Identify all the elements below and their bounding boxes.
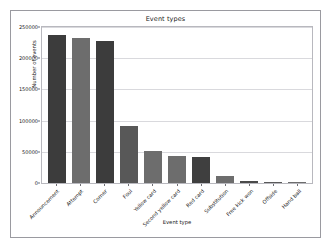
bar-series [42, 27, 312, 183]
x-tick-mark [273, 184, 274, 186]
y-tick-mark [38, 183, 40, 184]
bar [240, 181, 259, 183]
bar [168, 156, 187, 183]
chart-title: Event types [11, 15, 320, 23]
x-tick-label: Announcement [28, 188, 60, 220]
y-tick-label: 100000 [19, 118, 38, 124]
bar [144, 151, 163, 183]
y-tick-mark [38, 151, 40, 152]
x-label-slot: Hand ball [286, 188, 310, 232]
bar-slot [45, 27, 69, 183]
bar-slot [261, 27, 285, 183]
y-tick-label: 50000 [22, 149, 38, 155]
x-tick-mark [56, 184, 57, 186]
bar-slot [165, 27, 189, 183]
bar [192, 157, 211, 183]
y-axis-label: Number of events [31, 19, 37, 109]
x-tick-mark [128, 184, 129, 186]
bar-slot [285, 27, 309, 183]
x-tick-mark [297, 184, 298, 186]
bar-slot [189, 27, 213, 183]
chart-figure: Event types 0500001000001500002000002500… [10, 10, 321, 238]
y-tick-mark [38, 58, 40, 59]
x-label-slot: Offside [262, 188, 286, 232]
x-tick-label: Corner [92, 188, 109, 205]
x-axis-labels: AnnouncementAttemptCornerFoulYellow card… [41, 188, 313, 232]
bar-slot [141, 27, 165, 183]
x-label-slot: Attempt [68, 188, 92, 232]
x-tick-label: Foul [121, 188, 133, 200]
x-label-slot: Free kick won [238, 188, 262, 232]
x-tick-mark [249, 184, 250, 186]
x-label-slot: Second yellow card [165, 188, 189, 232]
bar-slot [93, 27, 117, 183]
x-tick-mark [225, 184, 226, 186]
x-label-slot: Announcement [44, 188, 68, 232]
y-tick-mark [38, 27, 40, 28]
x-tick-mark [104, 184, 105, 186]
bar [96, 41, 115, 183]
bar [216, 176, 235, 183]
x-tick-mark [80, 184, 81, 186]
x-tick-mark [152, 184, 153, 186]
bar [288, 182, 307, 183]
x-tick-label: Offside [261, 188, 278, 205]
bar [72, 38, 91, 183]
bar [120, 126, 139, 183]
plot-area [41, 26, 313, 184]
bar-slot [117, 27, 141, 183]
y-tick-mark [38, 89, 40, 90]
y-tick-mark [38, 120, 40, 121]
bar-slot [69, 27, 93, 183]
x-axis-label: Event type [41, 219, 313, 225]
bar-slot [237, 27, 261, 183]
x-tick-mark [177, 184, 178, 186]
x-tick-label: Attempt [65, 188, 84, 207]
bar-slot [213, 27, 237, 183]
bar [264, 182, 283, 183]
x-tick-mark [201, 184, 202, 186]
x-label-slot: Corner [92, 188, 116, 232]
bar [48, 35, 67, 184]
